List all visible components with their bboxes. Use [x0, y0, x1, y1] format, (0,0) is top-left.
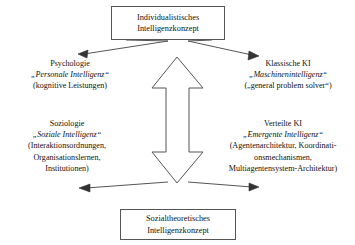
individualistic-concept-line-2: Intelligenzkonzept	[137, 23, 199, 35]
quadrant-label-classic-ai: Klassische KI „Maschinenintelligenz“ („g…	[224, 58, 352, 92]
socialtheoretic-concept-box: Sozialtheoretisches Intelligenzkonzept	[120, 209, 236, 240]
distributed-ai-term: „Emergente Intelligenz“	[212, 129, 354, 140]
distributed-ai-detail-line-1: (Agentenarchitektur, Koordinati-	[212, 140, 354, 151]
quadrant-label-sociology: Soziologie „Soziale Intelligenz“ (Intera…	[2, 118, 132, 174]
double-headed-vertical-arrow-icon	[152, 57, 203, 183]
sociology-detail-line-2: Organisationslernen,	[2, 152, 132, 163]
distributed-ai-heading: Verteilte KI	[212, 118, 354, 129]
quadrant-label-psychology: Psychologie „Personale Intelligenz“ (kog…	[4, 58, 136, 92]
sociology-detail-line-1: (Interaktionsordnungen,	[2, 140, 132, 151]
arrowhead-bottom-left-icon	[79, 184, 90, 192]
connector-top-left-line	[84, 41, 168, 54]
psychology-detail: (kognitive Leistungen)	[4, 80, 136, 91]
quadrant-label-distributed-ai: Verteilte KI „Emergente Intelligenz“ (Ag…	[212, 118, 354, 174]
sociology-term: „Soziale Intelligenz“	[2, 129, 132, 140]
distributed-ai-detail-line-2: onsmechanismen,	[212, 152, 354, 163]
socialtheoretic-concept-line-1: Sozialtheoretisches	[146, 213, 210, 225]
socialtheoretic-concept-line-2: Intelligenzkonzept	[147, 225, 209, 237]
individualistic-concept-line-1: Individualistisches	[137, 12, 199, 24]
sociology-heading: Soziologie	[2, 118, 132, 129]
connector-bottom-left-line	[86, 182, 168, 188]
distributed-ai-detail-line-3: Multiagentensystem-Architektur)	[212, 163, 354, 174]
arrowhead-top-left-icon	[78, 50, 88, 58]
classic-ai-term: „Maschinenintelligenz“	[224, 69, 352, 80]
connector-top-box-right-line	[188, 40, 212, 41]
arrowhead-bottom-right-icon	[249, 183, 259, 191]
classic-ai-detail: („general problem solver“)	[224, 80, 352, 91]
sociology-detail-line-3: Institutionen)	[2, 163, 132, 174]
psychology-term: „Personale Intelligenz“	[4, 69, 136, 80]
classic-ai-heading: Klassische KI	[224, 58, 352, 69]
diagram-canvas: Individualistisches Intelligenzkonzept S…	[0, 0, 355, 245]
psychology-heading: Psychologie	[4, 58, 136, 69]
connector-bottom-right-line	[188, 182, 252, 187]
individualistic-concept-box: Individualistisches Intelligenzkonzept	[111, 6, 225, 40]
